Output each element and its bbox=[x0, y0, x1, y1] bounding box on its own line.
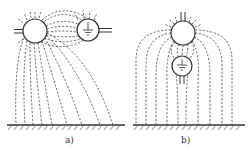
panel-b-ground-hatching bbox=[134, 125, 240, 130]
panel-b-energized-conductor bbox=[171, 21, 195, 45]
panel-a-ground-hatching bbox=[8, 125, 120, 130]
panel-b-label: b) bbox=[181, 135, 190, 145]
field-lines-diagram: a) b) bbox=[0, 0, 251, 153]
panel-a-label: a) bbox=[65, 135, 74, 145]
panel-a-energized-conductor bbox=[23, 19, 47, 43]
panel-b bbox=[133, 12, 245, 130]
panel-a bbox=[7, 10, 125, 130]
